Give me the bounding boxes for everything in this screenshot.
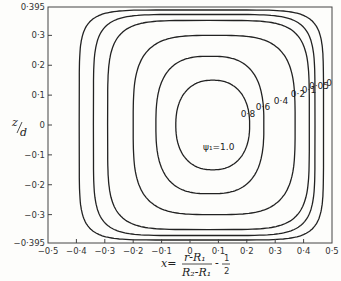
svg-text:2: 2	[224, 266, 229, 276]
y-tick-label: −0·3	[24, 210, 45, 220]
contour-lines	[79, 10, 323, 240]
x-tick-label: 0·4	[297, 246, 311, 256]
contour-line	[93, 15, 315, 236]
contour-line	[156, 56, 264, 193]
contour-line	[133, 35, 295, 214]
x-tick-label: −0·1	[151, 246, 172, 256]
x-tick-label: −0·5	[38, 246, 59, 256]
svg-text:z: z	[11, 116, 18, 129]
contour-line	[79, 10, 323, 240]
svg-text:-: -	[215, 257, 219, 270]
y-axis-title: z d	[11, 116, 27, 139]
x-tick-label: −0·3	[94, 246, 115, 256]
svg-text:r-R₁: r-R₁	[184, 251, 206, 264]
plot-frame	[48, 7, 332, 243]
contour-chart: 0·3950·30·20·10−0·1−0·2−0·3−0·395 −0·5−0…	[0, 0, 341, 281]
x-tick-label: −0·2	[123, 246, 144, 256]
y-axis-ticks: 0·3950·30·20·10−0·1−0·2−0·3−0·395	[14, 2, 52, 248]
contour-level-label: 0·4	[274, 96, 289, 106]
svg-text:R₂-R₁: R₂-R₁	[181, 266, 211, 279]
svg-text:1: 1	[224, 253, 229, 263]
x-tick-label: 0·2	[240, 246, 254, 256]
x-tick-label: 0·5	[325, 246, 339, 256]
y-tick-label: −0·2	[24, 180, 45, 190]
contour-line	[176, 80, 250, 170]
x-tick-label: −0·4	[66, 246, 87, 256]
x-tick-label: 0·3	[268, 246, 282, 256]
contour-level-label: 0·8	[241, 109, 256, 119]
y-tick-label: 0·3	[31, 30, 45, 40]
contour-level-label: 0·2	[291, 89, 305, 99]
y-tick-label: 0·1	[31, 90, 45, 100]
y-tick-label: 0·395	[21, 2, 45, 12]
contour-labels: 00·050·10·20·40·60·8	[241, 78, 332, 119]
y-tick-label: 0·2	[31, 60, 45, 70]
contour-line	[108, 20, 310, 229]
contour-level-label: 0·6	[256, 102, 271, 112]
svg-text:x=: x=	[161, 257, 176, 270]
svg-text:d: d	[20, 126, 27, 139]
y-tick-label: 0	[40, 120, 45, 130]
y-tick-label: −0·1	[24, 150, 45, 160]
center-label: ψ₁=1.0	[203, 142, 235, 152]
